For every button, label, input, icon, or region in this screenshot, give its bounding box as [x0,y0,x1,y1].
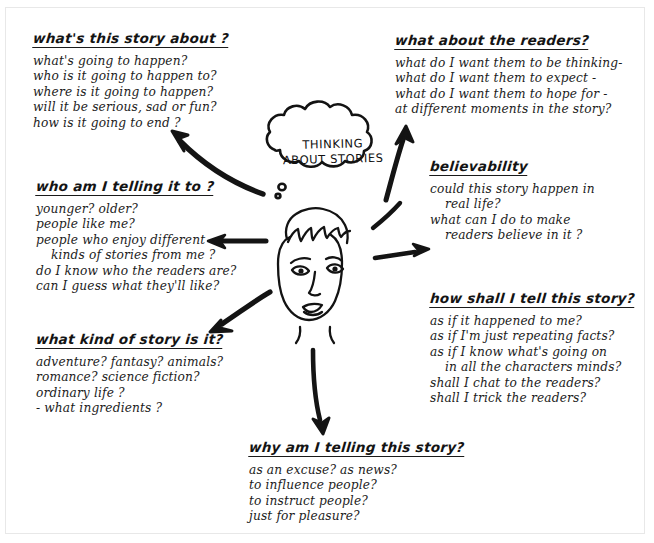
bubble-line-2: About Stories [281,151,385,169]
branch-lines: what's going to happen? who is it going … [33,54,229,131]
branch-lines: adventure? fantasy? animals? romance? sc… [36,355,223,417]
branch-line: just for pleasure? [249,509,465,524]
branch-title: what's this story about ? [32,30,230,48]
branch-lines: younger? older? people like me? people w… [36,202,237,294]
branch-title: what kind of story is it? [35,331,224,349]
branch-lines: as an excuse? as news? to influence peop… [249,463,465,525]
branch-lines: as if it happened to me? as if I'm just … [430,314,635,406]
branch-line: what do I want them to be thinking- [395,56,623,71]
branch-line: what's going to happen? [33,54,229,69]
branch-line: real life? [430,197,595,212]
branch-line: younger? older? [36,202,237,217]
branch-line: what do I want them to hope for - [395,87,623,102]
branch-line: people like me? [36,217,237,232]
branch-line: to instruct people? [249,494,465,509]
branch-line: could this story happen in [430,182,595,197]
branch-line: people who enjoy different [36,233,237,248]
branch-title: how shall I tell this story? [429,290,636,308]
branch-line: where is it going to happen? [33,85,229,100]
branch-line: as if I know what's going on [430,345,635,360]
branch-telling-it-to: who am I telling it to ? younger? older?… [36,176,237,294]
branch-line: shall I trick the readers? [430,391,635,406]
branch-title: why am I telling this story? [248,439,465,457]
mindmap-page: Thinking About Stories what's this story… [0,0,654,543]
branch-title: who am I telling it to ? [35,178,215,196]
branch-line: readers believe in it ? [430,228,595,243]
branch-about-readers: what about the readers? what do I want t… [395,30,623,118]
branch-line: to influence people? [249,478,465,493]
branch-kind-of-story: what kind of story is it? adventure? fan… [36,329,223,417]
arrow-to-about-readers [386,126,413,200]
branch-why-telling: why am I telling this story? as an excus… [249,437,465,525]
branch-how-shall-i-tell: how shall I tell this story? as if it ha… [430,288,635,406]
branch-title: what about the readers? [394,32,590,50]
branch-line: how is it going to end ? [33,116,229,131]
arrow-to-believability [373,203,400,228]
branch-line: as if it happened to me? [430,314,635,329]
arrow-to-kind-of-story [210,292,270,332]
branch-line: ordinary life ? [36,386,223,401]
branch-lines: could this story happen in real life? wh… [430,182,595,244]
arrow-to-why-telling [313,350,329,434]
branch-believability: believability could this story happen in… [430,156,595,244]
branch-lines: what do I want them to be thinking- what… [395,56,623,118]
branch-line: who is it going to happen to? [33,69,229,84]
branch-line: romance? science fiction? [36,370,223,385]
branch-line: at different moments in the story? [395,102,623,117]
boy-face-illustration [278,208,350,343]
branch-line: as if I'm just repeating facts? [430,329,635,344]
branch-line: will it be serious, sad or fun? [33,100,229,115]
thought-bubble-label: Thinking About Stories [281,136,386,169]
branch-line: as an excuse? as news? [249,463,465,478]
branch-line: what do I want them to expect - [395,71,623,86]
arrow-to-how-shall-i-tell [375,244,429,258]
branch-line: - what ingredients ? [36,401,223,416]
branch-line: kinds of stories from me ? [36,248,237,263]
branch-story-about: what's this story about ? what's going t… [33,28,229,131]
branch-title: believability [429,158,528,176]
branch-line: do I know who the readers are? [36,264,237,279]
branch-line: can I guess what they'll like? [36,279,237,294]
branch-line: what can I do to make [430,213,595,228]
branch-line: adventure? fantasy? animals? [36,355,223,370]
branch-line: in all the characters minds? [430,360,635,375]
branch-line: shall I chat to the readers? [430,376,635,391]
